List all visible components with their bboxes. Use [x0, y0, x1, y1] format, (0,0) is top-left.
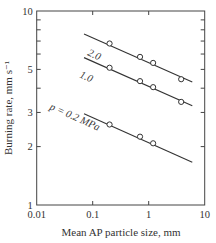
data-point-marker: [107, 41, 112, 46]
data-point-marker: [137, 79, 142, 84]
data-point-marker: [179, 77, 184, 82]
data-point-marker: [137, 54, 142, 59]
y-axis-title: Burning rate, mm s⁻¹: [2, 61, 14, 155]
x-tick-label: 0.1: [86, 209, 99, 220]
y-tick-label: 3: [27, 107, 32, 118]
data-point-marker: [137, 134, 142, 139]
series-label-0.2: p = 0.2 MPa: [47, 100, 102, 132]
y-tick-labels: 123510: [22, 6, 33, 211]
data-point-marker: [151, 85, 156, 90]
x-axis-title: Mean AP particle size, mm: [61, 226, 180, 238]
x-tick-label: 0.01: [28, 209, 46, 220]
data-point-marker: [107, 65, 112, 70]
data-point-marker: [151, 60, 156, 65]
x-tick-labels: 0.010.1110: [28, 209, 210, 220]
series-labels: 2.01.0p = 0.2 MPa: [47, 47, 103, 133]
data-point-marker: [179, 99, 184, 104]
x-tick-label: 10: [199, 209, 210, 220]
y-tick-label: 1: [27, 200, 32, 211]
data-points: [107, 41, 184, 146]
burning-rate-chart: 0.010.1110 123510 2.01.0p = 0.2 MPa Mean…: [0, 0, 216, 243]
y-tick-label: 10: [22, 6, 33, 17]
y-tick-label: 5: [27, 64, 32, 75]
x-tick-label: 1: [146, 209, 151, 220]
data-point-marker: [107, 122, 112, 127]
y-tick-label: 2: [27, 141, 32, 152]
data-point-marker: [151, 141, 156, 146]
series-label-1.0: 1.0: [78, 69, 95, 85]
